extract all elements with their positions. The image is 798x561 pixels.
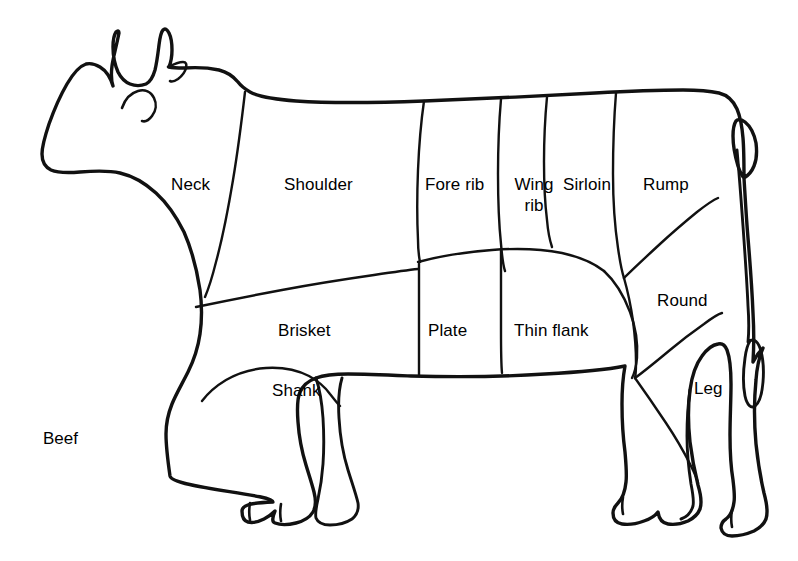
wing-rib-line-2: rib: [524, 196, 543, 215]
cut-label-brisket: Brisket: [278, 321, 331, 342]
cow-ear: [168, 62, 186, 81]
front-leg-rear: [316, 378, 359, 525]
cow-body-outline: [42, 29, 767, 536]
cutline-shoulder-brisket: [196, 269, 418, 307]
cut-label-wing-rib: Wing rib: [511, 175, 557, 216]
cut-label-sirloin: Sirloin: [563, 175, 611, 196]
cutline-rump-round: [624, 198, 718, 278]
cutline-forerib-plate: [418, 249, 604, 271]
cutline-sirloin-rump: [613, 93, 624, 278]
cow-eye: [122, 90, 156, 121]
cutline-round-leg: [635, 313, 722, 378]
front-hoof-cleft-left: [249, 503, 250, 520]
rear-hoof-cleft-right: [731, 510, 732, 527]
cut-label-leg: Leg: [694, 379, 723, 400]
cut-label-round: Round: [657, 291, 708, 312]
cut-label-rump: Rump: [643, 175, 689, 196]
cutline-neck-shoulder: [205, 92, 245, 297]
cow-outline-svg: [0, 0, 798, 561]
cutline-plate-thinflank: [501, 250, 502, 373]
figure-caption: Beef: [43, 429, 78, 449]
cutline-wingrib-sirloin: [544, 97, 552, 247]
beef-cuts-diagram: Neck Shoulder Fore rib Wing rib Sirloin …: [0, 0, 798, 561]
front-hoof-cleft-right: [280, 504, 281, 521]
cut-label-shank: Shank: [272, 381, 321, 402]
rear-hoof-cleft-left: [622, 497, 623, 514]
cutline-shoulder-forerib: [417, 101, 424, 262]
cut-label-shoulder: Shoulder: [284, 175, 353, 196]
cut-label-neck: Neck: [171, 175, 210, 196]
cut-label-plate: Plate: [428, 321, 467, 342]
cut-label-fore-rib: Fore rib: [425, 175, 484, 196]
wing-rib-line-1: Wing: [514, 175, 553, 194]
cutline-forerib-wingrib: [498, 99, 505, 271]
cut-label-thin-flank: Thin flank: [514, 321, 589, 342]
